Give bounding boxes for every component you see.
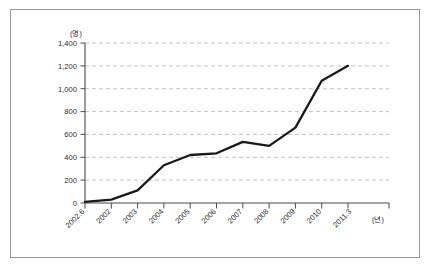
x-tick-labels: 2002.6 2002 2003 2004 2005 2006 2007 200… xyxy=(64,207,354,230)
x-tick-label: 2003 xyxy=(121,207,139,225)
chart-figure: 1,400 1,200 1,000 800 600 400 200 0 (명) xyxy=(0,0,434,273)
x-tick-label: 2008 xyxy=(252,207,270,225)
y-tick-label: 800 xyxy=(64,107,77,116)
line-chart: 1,400 1,200 1,000 800 600 400 200 0 (명) xyxy=(0,0,434,273)
y-tick-label: 1,200 xyxy=(58,62,77,71)
y-tick-label: 600 xyxy=(64,130,77,139)
data-series-line xyxy=(85,66,348,202)
x-tick-label: 2009 xyxy=(278,207,296,225)
x-tick-label: 2010 xyxy=(305,207,323,225)
y-tick-marks xyxy=(81,43,86,203)
y-tick-label: 400 xyxy=(64,153,77,162)
y-axis-unit-label: (명) xyxy=(70,29,82,38)
x-tick-label: 2004 xyxy=(147,207,165,225)
x-tick-label: 2002.6 xyxy=(64,207,87,230)
x-tick-label: 2002 xyxy=(94,207,112,225)
y-tick-labels: 1,400 1,200 1,000 800 600 400 200 0 xyxy=(58,39,77,208)
x-tick-label: 2005 xyxy=(173,207,191,225)
x-tick-label: 2011.3 xyxy=(331,207,353,229)
x-axis-unit-label: (년) xyxy=(372,215,384,224)
x-tick-label: 2006 xyxy=(200,207,218,225)
y-tick-label: 200 xyxy=(64,176,77,185)
y-tick-label: 1,000 xyxy=(58,85,77,94)
y-tick-label: 1,400 xyxy=(58,39,77,48)
gridlines xyxy=(85,43,389,180)
x-tick-label: 2007 xyxy=(226,207,244,225)
y-tick-label: 0 xyxy=(73,199,77,208)
